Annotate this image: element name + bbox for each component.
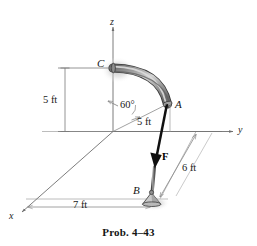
point-label-a: A bbox=[175, 99, 182, 110]
axis-lines bbox=[22, 27, 233, 212]
force-label-f: F bbox=[162, 152, 168, 163]
axis-label-y: y bbox=[238, 125, 242, 135]
dimension-label-height: 5 ft bbox=[43, 95, 57, 106]
figure-drawing bbox=[0, 0, 257, 246]
point-label-c: C bbox=[97, 58, 104, 69]
dimension-label-depth: 6 ft bbox=[182, 163, 196, 174]
figure-container: z y x C A B 5 ft 60° 5 ft 6 ft 7 ft F Pr… bbox=[0, 0, 257, 246]
point-label-b: B bbox=[133, 185, 140, 196]
dimension-label-angle: 60° bbox=[120, 100, 135, 111]
axis-label-z: z bbox=[110, 17, 114, 27]
dimension-label-radius: 5 ft bbox=[137, 117, 151, 128]
axis-x-line bbox=[22, 132, 113, 213]
figure-caption: Prob. 4–43 bbox=[0, 226, 257, 238]
axis-label-x: x bbox=[9, 211, 13, 221]
dimension-label-width: 7 ft bbox=[73, 200, 87, 211]
